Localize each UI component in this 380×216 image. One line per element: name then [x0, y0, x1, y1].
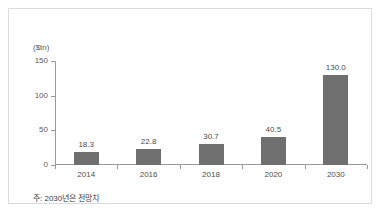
x-tick-mark	[55, 165, 56, 169]
x-tick-mark	[367, 165, 368, 169]
y-tick-label: 100	[35, 92, 48, 100]
x-category-label: 2014	[77, 171, 95, 179]
x-category-label: 2020	[264, 171, 282, 179]
bar-item[interactable]: 130.0	[323, 75, 348, 165]
bar-value-label: 130.0	[326, 64, 346, 72]
bar-item[interactable]: 30.7	[199, 144, 224, 165]
x-category-label: 2016	[140, 171, 158, 179]
x-tick-mark	[180, 165, 181, 169]
x-tick-mark	[305, 165, 306, 169]
y-tick-label: 0	[44, 161, 48, 169]
y-tick-label: 50	[39, 126, 48, 134]
chart-figure: ($tn) 050100150 18.3201422.8201630.72018…	[0, 0, 380, 216]
y-tick-mark	[51, 130, 55, 131]
chart-footnote: 주: 2030년은 전망치	[33, 192, 99, 203]
bar-value-label: 40.5	[266, 126, 282, 134]
plot-area: 050100150 18.3201422.8201630.7201840.520…	[55, 61, 367, 165]
y-tick-mark	[51, 61, 55, 62]
bar-rect[interactable]	[136, 149, 161, 165]
y-axis-unit-label: ($tn)	[33, 43, 49, 52]
bar-rect[interactable]	[261, 137, 286, 165]
y-tick-mark	[51, 96, 55, 97]
bar-value-label: 22.8	[141, 138, 157, 146]
bar-item[interactable]: 40.5	[261, 137, 286, 165]
bar-rect[interactable]	[323, 75, 348, 165]
bar-item[interactable]: 22.8	[136, 149, 161, 165]
bar-item[interactable]: 18.3	[74, 152, 99, 165]
y-tick-label: 150	[35, 57, 48, 65]
x-tick-mark	[242, 165, 243, 169]
figure-frame: ($tn) 050100150 18.3201422.8201630.72018…	[8, 8, 372, 204]
bar-value-label: 18.3	[78, 141, 94, 149]
x-tick-mark	[117, 165, 118, 169]
x-category-label: 2030	[327, 171, 345, 179]
bar-value-label: 30.7	[203, 133, 219, 141]
bar-rect[interactable]	[74, 152, 99, 165]
bar-rect[interactable]	[199, 144, 224, 165]
y-axis-line	[55, 61, 56, 165]
x-category-label: 2018	[202, 171, 220, 179]
